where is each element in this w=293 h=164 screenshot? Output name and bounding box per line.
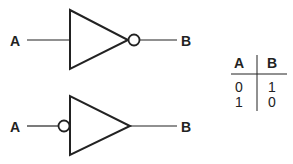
inversion-bubble-icon bbox=[59, 121, 70, 132]
inversion-bubble-icon bbox=[129, 35, 140, 46]
gate-bottom-output-label: B bbox=[181, 119, 191, 135]
truth-table-cell: 1 bbox=[235, 94, 243, 110]
gate-bottom-input-label: A bbox=[10, 119, 20, 135]
truth-table-cell: 1 bbox=[268, 79, 276, 95]
truth-table-cell: 0 bbox=[268, 94, 276, 110]
truth-table: A B 0 1 1 0 bbox=[231, 55, 287, 111]
gate-top-input-label: A bbox=[10, 33, 20, 49]
buffer-triangle-icon bbox=[70, 10, 128, 69]
logic-diagram: A B A B A B 0 1 1 0 bbox=[0, 0, 293, 164]
buffer-triangle-icon bbox=[70, 96, 130, 155]
truth-table-cell: 0 bbox=[235, 79, 243, 95]
gate-top-output-label: B bbox=[181, 33, 191, 49]
truth-table-header-a: A bbox=[234, 55, 244, 71]
gate-bottom: A B bbox=[10, 96, 191, 155]
gate-top: A B bbox=[10, 10, 191, 69]
truth-table-header-b: B bbox=[267, 55, 277, 71]
